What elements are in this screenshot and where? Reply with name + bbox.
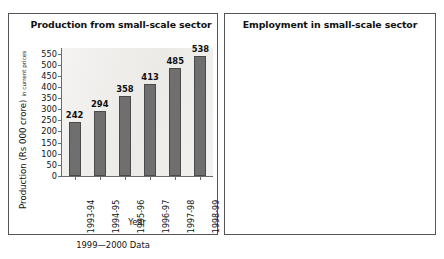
y-tick-production-4	[58, 131, 62, 132]
y-tick-production-9	[58, 76, 62, 77]
bar-value-label-production-1: 294	[91, 99, 108, 109]
bar-production-1996-97	[144, 84, 156, 176]
x-tick-production-0	[75, 176, 76, 180]
y-tick-label-production-7: 350	[41, 93, 57, 103]
bar-value-label-production-3: 413	[141, 72, 158, 82]
y-axis-title-production: Production (Rs 000 crore) in current pri…	[18, 51, 28, 209]
plot-area-production: 0501001502002503003504004505005502421993…	[61, 48, 213, 177]
bar-group: 294	[94, 111, 106, 176]
bar-group: 242	[69, 122, 81, 176]
y-tick-label-production-2: 100	[41, 149, 57, 159]
bar-value-label-production-0: 242	[66, 110, 83, 120]
y-tick-production-6	[58, 109, 62, 110]
bar-production-1998-99	[194, 56, 206, 176]
bar-production-1993-94	[69, 122, 81, 176]
bar-group: 485	[169, 68, 181, 176]
y-tick-label-production-4: 200	[41, 126, 57, 136]
y-tick-production-11	[58, 54, 62, 55]
x-tick-production-1	[100, 176, 101, 180]
y-tick-production-7	[58, 98, 62, 99]
y-tick-production-10	[58, 65, 62, 66]
bar-value-label-production-5: 538	[192, 44, 209, 54]
x-tick-label-production-5: 1998-99	[213, 200, 222, 233]
y-tick-label-production-6: 300	[41, 104, 57, 114]
y-tick-production-2	[58, 154, 62, 155]
x-tick-production-2	[125, 176, 126, 180]
y-tick-production-8	[58, 87, 62, 88]
plot-background	[62, 48, 213, 176]
source-caption: 1999—2000 Data	[8, 240, 218, 250]
y-tick-label-production-11: 550	[41, 49, 57, 59]
y-tick-production-3	[58, 143, 62, 144]
y-tick-production-0	[58, 176, 62, 177]
bar-group: 358	[119, 96, 131, 176]
y-tick-label-production-5: 250	[41, 115, 57, 125]
bar-group: 413	[144, 84, 156, 176]
y-tick-label-production-1: 50	[47, 160, 57, 170]
y-tick-label-production-3: 150	[41, 138, 57, 148]
y-tick-label-production-10: 500	[41, 60, 57, 70]
y-tick-label-production-9: 450	[41, 71, 57, 81]
bar-value-label-production-2: 358	[116, 84, 133, 94]
bar-production-1994-95	[94, 111, 106, 176]
y-tick-production-1	[58, 165, 62, 166]
bar-production-1997-98	[169, 68, 181, 176]
chart-title-production: Production from small-scale sector	[9, 19, 217, 30]
x-tick-production-4	[175, 176, 176, 180]
x-tick-production-3	[150, 176, 151, 180]
x-axis-title-production: Year	[61, 217, 213, 227]
y-tick-production-5	[58, 120, 62, 121]
chart-title-employment: Employment in small-scale sector	[225, 19, 435, 30]
x-tick-production-5	[200, 176, 201, 180]
bar-value-label-production-4: 485	[167, 56, 184, 66]
chart-panel-production: Production from small-scale sector Produ…	[8, 13, 218, 235]
y-axis-title-main: Production (Rs 000 crore)	[18, 100, 28, 209]
chart-panel-employment: Employment in small-scale sector Employm…	[224, 13, 436, 235]
y-tick-label-production-8: 400	[41, 82, 57, 92]
figure-root: Production from small-scale sector Produ…	[0, 0, 444, 259]
y-axis-title-sub: in current prices	[21, 51, 27, 97]
y-tick-label-production-0: 0	[52, 171, 57, 181]
bar-group: 538	[194, 56, 206, 176]
bar-production-1995-96	[119, 96, 131, 176]
